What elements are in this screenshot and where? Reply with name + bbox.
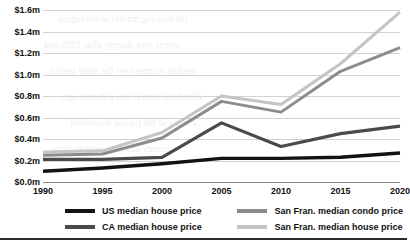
legend-label: CA median house price: [102, 222, 202, 232]
x-axis-tick-label: 2010: [271, 186, 291, 196]
x-axis-tick-label: 2005: [211, 186, 231, 196]
x-axis-tick-label: 1995: [92, 186, 112, 196]
y-axis-tick-label: $1.4m: [0, 27, 40, 37]
legend-swatch-icon: [237, 209, 267, 213]
series-line: [43, 48, 400, 156]
y-axis-tick-label: $0.2m: [0, 156, 40, 166]
y-axis-tick-label: $0.6m: [0, 113, 40, 123]
legend-item-ca-median-house-price: CA median house price: [43, 219, 215, 235]
y-axis-tick-label: $1.6m: [0, 5, 40, 15]
series-lines: [43, 10, 400, 182]
x-axis-tick-label: 2020: [390, 186, 410, 196]
legend-swatch-icon: [237, 225, 267, 229]
legend-label: San Fran. median condo price: [274, 206, 403, 216]
page-bottom-rule: [0, 238, 407, 240]
y-axis-tick-label: $1.2m: [0, 48, 40, 58]
plot-area: [43, 10, 400, 182]
legend-item-us-median-house-price: US median house price: [43, 203, 215, 219]
y-axis-tick-label: $1.0m: [0, 70, 40, 80]
y-axis-tick-label: $0.8m: [0, 91, 40, 101]
series-line: [43, 12, 400, 152]
legend-label: San Fran. median house price: [274, 222, 402, 232]
series-line: [43, 153, 400, 171]
x-axis-tick-label: 2000: [152, 186, 172, 196]
legend-swatch-icon: [65, 209, 95, 213]
chart-legend: US median house price San Fran. median c…: [43, 203, 403, 235]
legend-swatch-icon: [65, 225, 95, 229]
y-axis-tick-label: $0.4m: [0, 134, 40, 144]
legend-label: US median house price: [102, 206, 202, 216]
x-axis-tick-label: 2015: [330, 186, 350, 196]
x-axis-line: [43, 182, 400, 183]
legend-item-san-fran-median-house-price: San Fran. median house price: [215, 219, 403, 235]
legend-item-san-fran-median-condo-price: San Fran. median condo price: [215, 203, 403, 219]
x-axis-tick-label: 1990: [33, 186, 53, 196]
